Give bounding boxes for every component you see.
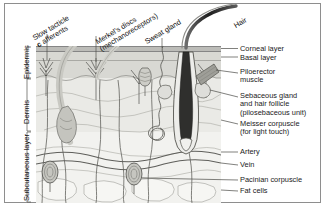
label-piloerector-muscle: Piloerector muscle (240, 68, 275, 85)
hair-shaft (182, 4, 236, 48)
label-basal-layer: Basal layer (240, 54, 277, 62)
layer-label-dermis: Dermis (22, 100, 31, 124)
layer-label-subcutaneous: Subcutaneous layer (22, 134, 31, 201)
label-sebaceous-gland: Sebaceous gland and hair follicle (pilos… (240, 92, 306, 117)
label-pacinian-corpuscle: Pacinian corpuscle (240, 176, 302, 184)
label-artery: Artery (240, 148, 260, 156)
skin-anatomy-figure: Slow tacticle c afferents Merkel's discs… (0, 0, 328, 210)
label-fat-cells: Fat cells (240, 187, 268, 195)
label-meissner-corpuscle: Meisser corpuscle (for light touch) (240, 120, 300, 137)
layer-label-epidermis: Epidermis (22, 45, 31, 79)
label-vein: Vein (240, 161, 254, 169)
